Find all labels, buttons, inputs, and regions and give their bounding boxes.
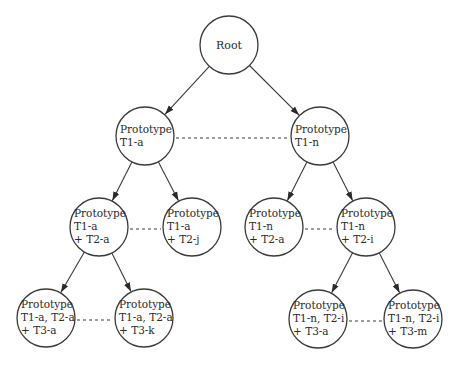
edge-arrow xyxy=(333,162,353,201)
node-label-line: Prototype xyxy=(295,123,347,135)
node-label-line: T1-a, T2-a xyxy=(21,311,75,323)
node-label-line: + T3-m xyxy=(388,325,427,337)
edge-arrow xyxy=(165,66,209,114)
node-label-line: + T3-k xyxy=(119,324,155,336)
node-t1n-t2i: PrototypeT1-n+ T2-i xyxy=(337,198,395,256)
prototype-tree-diagram: RootPrototypeT1-aPrototypeT1-nPrototypeT… xyxy=(0,0,460,371)
node-label-line: T1-n, T2-i xyxy=(388,312,440,324)
node-label-line: Prototype xyxy=(167,207,219,219)
node-label-line: + T3-a xyxy=(21,324,57,336)
edge-arrow xyxy=(332,253,353,293)
node-t1n: PrototypeT1-n xyxy=(291,107,349,165)
edge-arrow xyxy=(250,66,300,116)
node-label-line: T1-n xyxy=(341,220,365,232)
node-label-line: + T2-a xyxy=(74,233,110,245)
node-label-line: T1-n, T2-i xyxy=(293,312,345,324)
node-t1a: PrototypeT1-a xyxy=(116,107,174,165)
node-label-line: Root xyxy=(216,39,243,52)
node-label-line: T1-a xyxy=(74,220,98,232)
node-label-line: T1-a, T2-a xyxy=(119,311,173,323)
node-root: Root xyxy=(200,16,258,74)
edge-arrow xyxy=(287,162,307,201)
node-t1a-t2a-t3k: PrototypeT1-a, T2-a+ T3-k xyxy=(115,289,173,347)
node-label-line: Prototype xyxy=(120,123,172,135)
node-label-line: T1-a xyxy=(120,136,144,148)
node-label-line: Prototype xyxy=(119,298,171,310)
node-t1a-t2j: PrototypeT1-a+ T2-j xyxy=(163,198,221,256)
node-label-line: + T2-j xyxy=(167,233,200,245)
node-label-line: Prototype xyxy=(74,207,126,219)
node-label-line: Prototype xyxy=(21,298,73,310)
edge-arrow xyxy=(112,253,131,292)
node-t1n-t2a: PrototypeT1-n+ T2-a xyxy=(245,198,303,256)
edge-arrow xyxy=(379,253,399,293)
node-label-line: + T3-a xyxy=(293,325,329,337)
node-label-line: T1-a xyxy=(167,220,191,232)
edge-arrow xyxy=(61,252,85,292)
tree-edges xyxy=(61,66,400,293)
edge-arrow xyxy=(158,162,178,201)
node-t1n-t2i-t3m: PrototypeT1-n, T2-i+ T3-m xyxy=(384,290,442,348)
node-label-line: T1-n xyxy=(295,136,319,148)
node-label-line: + T2-i xyxy=(341,233,374,245)
node-label-line: Prototype xyxy=(341,207,393,219)
tree-nodes: RootPrototypeT1-aPrototypeT1-nPrototypeT… xyxy=(17,16,442,348)
node-label-line: Prototype xyxy=(388,299,440,311)
node-t1a-t2a: PrototypeT1-a+ T2-a xyxy=(70,198,128,256)
node-t1a-t2a-t3a: PrototypeT1-a, T2-a+ T3-a xyxy=(17,289,75,347)
node-label-line: Prototype xyxy=(293,299,345,311)
node-label-line: + T2-a xyxy=(249,233,285,245)
edge-arrow xyxy=(112,162,132,201)
node-label-line: Prototype xyxy=(249,207,301,219)
node-t1n-t2i-t3a: PrototypeT1-n, T2-i+ T3-a xyxy=(289,290,347,348)
node-label-line: T1-n xyxy=(249,220,273,232)
